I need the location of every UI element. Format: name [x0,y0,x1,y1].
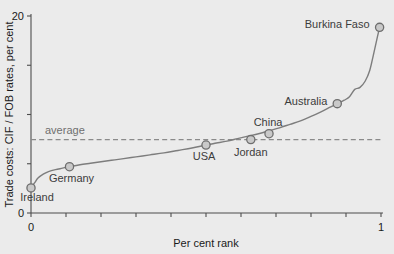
data-point-marker-usa[interactable] [202,141,210,149]
x-axis-tick-label: 0 [28,221,34,233]
chart-container: 02001Per cent rankTrade costs: CIF / FOB… [0,0,394,254]
x-axis-title: Per cent rank [173,237,239,249]
data-point-marker-australia[interactable] [333,100,341,108]
data-point-marker-germany[interactable] [65,163,73,171]
y-axis-tick-label: 0 [18,207,24,219]
data-point-label-china: China [254,116,284,128]
y-axis-title: Trade costs: CIF / FOB rates, per cent [3,21,15,207]
data-point-marker-jordan[interactable] [247,136,255,144]
data-point-label-burkina-faso: Burkina Faso [305,18,370,30]
data-curve [31,27,380,188]
data-point-marker-china[interactable] [265,130,273,138]
y-axis-tick-label: 20 [12,10,24,22]
x-axis-tick-label: 1 [378,221,384,233]
data-point-label-ireland: Ireland [20,191,54,203]
data-point-marker-burkina-faso[interactable] [376,23,384,31]
data-point-label-jordan: Jordan [234,146,268,158]
trade-costs-line-chart: 02001Per cent rankTrade costs: CIF / FOB… [0,0,394,254]
data-point-label-germany: Germany [49,172,95,184]
data-point-label-usa: USA [193,150,216,162]
data-point-label-australia: Australia [284,95,328,107]
average-line-label: average [45,124,85,136]
